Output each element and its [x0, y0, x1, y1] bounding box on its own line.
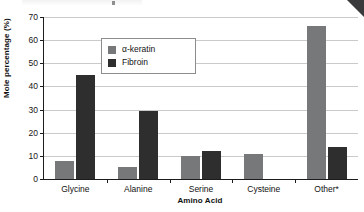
y-tick-label: 60	[29, 36, 38, 45]
legend-swatch-icon	[108, 46, 116, 54]
x-category-label: Other*	[314, 185, 339, 194]
plot-area: 010203040506070 GlycineAlanineSerineCyst…	[43, 17, 358, 180]
bar	[139, 111, 158, 179]
gridline	[44, 17, 358, 18]
y-tick-mark	[40, 156, 44, 157]
bar	[76, 75, 95, 179]
legend-item: α-keratin	[108, 43, 195, 56]
legend-label: α-keratin	[122, 45, 155, 54]
chart-legend: α-keratinFibroin	[101, 38, 196, 74]
x-axis-title: Amino Acid	[43, 196, 357, 205]
y-tick-mark	[40, 179, 44, 180]
y-tick-label: 30	[29, 105, 38, 114]
legend-swatch-icon	[108, 59, 116, 67]
bar	[181, 156, 200, 179]
y-tick-mark	[40, 17, 44, 18]
y-axis-title: Mole percentage (%)	[2, 18, 11, 98]
y-tick-mark	[40, 133, 44, 134]
x-category-label: Glycine	[61, 185, 89, 194]
x-category-label: Cysteine	[247, 185, 280, 194]
y-tick-label: 10	[29, 152, 38, 161]
bar-chart-figure: Mole percentage (%) 010203040506070 Glyc…	[0, 0, 364, 212]
y-tick-label: 70	[29, 13, 38, 22]
y-tick-label: 50	[29, 59, 38, 68]
x-category-label: Alanine	[124, 185, 152, 194]
bar	[244, 154, 263, 179]
bar	[118, 167, 137, 179]
y-tick-label: 20	[29, 128, 38, 137]
y-tick-label: 40	[29, 82, 38, 91]
x-tick-mark	[107, 179, 108, 183]
bar	[328, 147, 347, 179]
x-tick-mark	[232, 179, 233, 183]
legend-label: Fibroin	[122, 58, 148, 67]
x-category-label: Serine	[189, 185, 214, 194]
bar	[202, 151, 221, 179]
x-tick-mark	[295, 179, 296, 183]
x-tick-mark	[170, 179, 171, 183]
y-tick-label: 0	[33, 175, 38, 184]
y-tick-mark	[40, 86, 44, 87]
bar	[307, 26, 326, 179]
y-tick-mark	[40, 110, 44, 111]
y-tick-mark	[40, 63, 44, 64]
bar	[55, 161, 74, 180]
legend-item: Fibroin	[108, 56, 195, 69]
y-tick-mark	[40, 40, 44, 41]
